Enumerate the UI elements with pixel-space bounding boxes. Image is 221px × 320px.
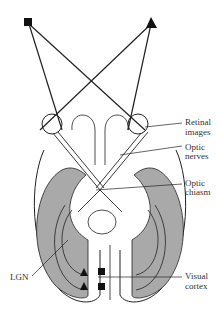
label-visual-1: Visual: [185, 271, 208, 281]
visual-pathway-diagram: Retinal images Optic nerves Optic chiasm…: [0, 0, 221, 320]
square-object: [24, 18, 32, 26]
label-visual-2: cortex: [185, 281, 208, 291]
triangle-object: [146, 17, 157, 28]
label-optic-chiasm-2: chiasm: [185, 187, 211, 197]
label-retinal: Retinal: [185, 117, 211, 127]
label-lgn: LGN: [10, 272, 29, 282]
label-optic-nerves-2: nerves: [185, 151, 209, 161]
left-eye: [42, 114, 62, 134]
thalamus: [88, 210, 116, 234]
frontal-lobes: [72, 115, 128, 165]
square-marker-upper: [98, 268, 105, 275]
label-images: images: [185, 127, 211, 137]
square-marker-lower: [98, 283, 105, 290]
